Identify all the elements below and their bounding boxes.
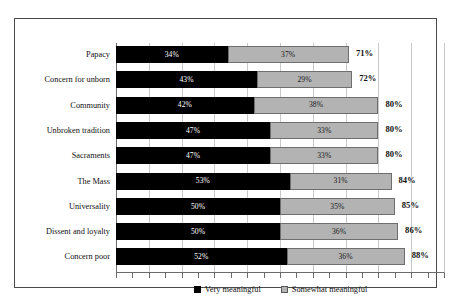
x-axis-tick <box>378 273 379 278</box>
stacked-bar: 42%38% <box>116 97 378 114</box>
category-label: Sacraments <box>15 147 110 164</box>
category-label: Concern poor <box>15 248 110 265</box>
category-label: Community <box>15 97 110 114</box>
bar-segment-very-meaningful: 43% <box>116 71 257 88</box>
category-label: Papacy <box>15 46 110 63</box>
bar-total-label: 80% <box>385 124 402 134</box>
legend-label-very-meaningful: Very meaningful <box>205 285 261 294</box>
chart-screenshot: Papacy34%37%71%Concern for unborn43%29%7… <box>0 0 450 301</box>
bar-segment-somewhat-meaningful: 38% <box>254 97 379 114</box>
x-axis-tick <box>346 273 347 278</box>
bar-value-label: 47% <box>186 127 200 135</box>
chart-legend: Very meaningful Somewhat meaningful <box>116 285 445 294</box>
bar-value-label: 53% <box>196 177 210 185</box>
bar-value-label: 50% <box>191 203 205 211</box>
x-axis-tick <box>214 273 215 278</box>
x-axis-tick <box>395 273 396 278</box>
bar-segment-very-meaningful: 42% <box>116 97 254 114</box>
bar-total-label: 88% <box>412 250 429 260</box>
x-axis-tick <box>411 273 412 278</box>
bar-total-label: 71% <box>356 48 373 58</box>
x-axis-tick <box>264 273 265 278</box>
bar-total-label: 80% <box>385 149 402 159</box>
bar-value-label: 37% <box>281 51 295 59</box>
x-axis-tick <box>280 273 281 278</box>
bar-value-label: 36% <box>338 253 352 261</box>
category-label: Concern for unborn <box>15 71 110 88</box>
bar-total-label: 86% <box>405 225 422 235</box>
x-axis-tick <box>247 273 248 278</box>
stacked-bar: 47%33% <box>116 147 378 164</box>
bar-segment-very-meaningful: 50% <box>116 198 280 215</box>
bar-value-label: 52% <box>194 253 208 261</box>
x-axis-tick <box>182 273 183 278</box>
x-axis-tick <box>116 273 117 278</box>
x-axis-tick <box>132 273 133 278</box>
category-label: Unbroken tradition <box>15 122 110 139</box>
stacked-bar: 53%31% <box>116 173 392 190</box>
category-label: The Mass <box>15 173 110 190</box>
black-square-icon <box>194 286 201 293</box>
x-axis-tick <box>198 273 199 278</box>
bar-segment-somewhat-meaningful: 31% <box>290 173 392 190</box>
stacked-bar: 43%29% <box>116 71 352 88</box>
stacked-bar: 52%36% <box>116 248 405 265</box>
bar-value-label: 47% <box>186 152 200 160</box>
bar-value-label: 35% <box>330 203 344 211</box>
gray-square-icon <box>281 286 288 293</box>
category-label: Universality <box>15 198 110 215</box>
x-axis-tick <box>428 273 429 278</box>
x-axis-tick <box>444 273 445 278</box>
bar-value-label: 33% <box>317 127 331 135</box>
stacked-bar: 50%36% <box>116 223 398 240</box>
bar-value-label: 50% <box>191 228 205 236</box>
x-axis-tick <box>362 273 363 278</box>
legend-item-somewhat-meaningful: Somewhat meaningful <box>281 285 368 294</box>
bar-value-label: 42% <box>178 101 192 109</box>
bar-segment-somewhat-meaningful: 29% <box>257 71 352 88</box>
bar-segment-somewhat-meaningful: 37% <box>228 46 349 63</box>
gridline <box>411 43 412 272</box>
bar-segment-somewhat-meaningful: 35% <box>280 198 395 215</box>
x-axis-tick <box>165 273 166 278</box>
gridline <box>444 43 445 272</box>
stacked-bar: 34%37% <box>116 46 349 63</box>
bar-value-label: 34% <box>165 51 179 59</box>
bar-value-label: 38% <box>309 101 323 109</box>
x-axis-tick <box>296 273 297 278</box>
bar-segment-very-meaningful: 34% <box>116 46 228 63</box>
bar-value-label: 31% <box>334 177 348 185</box>
bar-segment-very-meaningful: 52% <box>116 248 287 265</box>
bar-total-label: 85% <box>402 200 419 210</box>
legend-label-somewhat-meaningful: Somewhat meaningful <box>292 285 368 294</box>
bar-segment-somewhat-meaningful: 33% <box>270 147 378 164</box>
x-axis-tick <box>231 273 232 278</box>
bar-segment-very-meaningful: 47% <box>116 122 270 139</box>
bar-segment-very-meaningful: 47% <box>116 147 270 164</box>
bar-total-label: 72% <box>359 73 376 83</box>
bar-total-label: 84% <box>399 175 416 185</box>
bar-segment-somewhat-meaningful: 36% <box>280 223 398 240</box>
bar-value-label: 29% <box>297 76 311 84</box>
x-axis-tick <box>329 273 330 278</box>
chart-frame: Papacy34%37%71%Concern for unborn43%29%7… <box>14 18 437 288</box>
bar-value-label: 33% <box>317 152 331 160</box>
bar-segment-very-meaningful: 53% <box>116 173 290 190</box>
bar-value-label: 43% <box>179 76 193 84</box>
bar-segment-very-meaningful: 50% <box>116 223 280 240</box>
bar-total-label: 80% <box>385 99 402 109</box>
bar-segment-somewhat-meaningful: 33% <box>270 122 378 139</box>
bar-value-label: 36% <box>332 228 346 236</box>
legend-item-very-meaningful: Very meaningful <box>194 285 261 294</box>
stacked-bar: 47%33% <box>116 122 378 139</box>
stacked-bar: 50%35% <box>116 198 395 215</box>
x-axis-tick <box>149 273 150 278</box>
x-axis-tick <box>313 273 314 278</box>
bar-segment-somewhat-meaningful: 36% <box>287 248 405 265</box>
category-label: Dissent and loyalty <box>15 223 110 240</box>
